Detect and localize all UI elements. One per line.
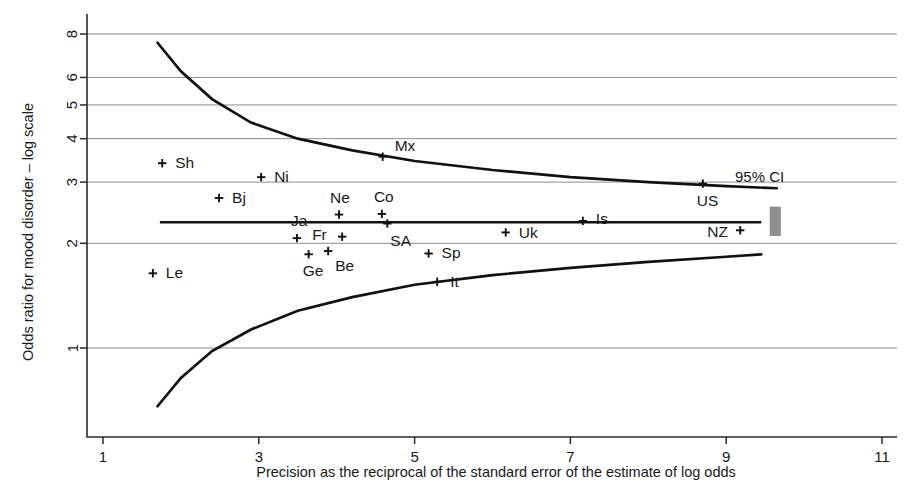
marker-sh <box>158 159 166 167</box>
data-point-labels: ShLeBjNiJaGeBeFrNeMxCoSASpItUkIsUSNZ <box>166 137 728 290</box>
point-label-ne: Ne <box>330 189 350 206</box>
ci-curve-upper <box>158 43 777 189</box>
ci-caption-label: 95% CI <box>735 168 784 185</box>
y-tick-label-5: 5 <box>64 101 81 109</box>
y-axis-ticks: 1234568 <box>64 30 88 352</box>
marker-us <box>699 179 707 187</box>
x-tick-label-3: 3 <box>255 448 263 465</box>
y-tick-label-4: 4 <box>64 134 81 142</box>
x-axis-ticks: 1357911 <box>99 437 890 465</box>
marker-fr <box>338 232 346 240</box>
point-label-it: It <box>450 273 459 290</box>
x-axis-title: Precision as the reciprocal of the stand… <box>256 464 736 480</box>
point-label-uk: Uk <box>519 224 538 241</box>
marker-is <box>579 217 587 225</box>
marker-nz <box>736 226 744 234</box>
marker-ja <box>293 234 301 242</box>
x-tick-label-9: 9 <box>722 448 730 465</box>
x-tick-label-7: 7 <box>566 448 574 465</box>
point-label-sh: Sh <box>175 154 194 171</box>
point-label-ja: Ja <box>291 212 308 229</box>
marker-it <box>433 278 441 286</box>
confidence-interval-curves <box>158 43 777 407</box>
marker-co <box>378 210 386 218</box>
y-tick-label-1: 1 <box>64 344 81 352</box>
x-tick-label-5: 5 <box>410 448 418 465</box>
marker-ni <box>257 173 265 181</box>
marker-be <box>324 247 332 255</box>
funnel-plot-figure: ShLeBjNiJaGeBeFrNeMxCoSASpItUkIsUSNZ 135… <box>0 0 912 502</box>
point-label-be: Be <box>335 257 354 274</box>
gridlines-group <box>87 34 897 348</box>
y-axis-title: Odds ratio for mood disorder – log scale <box>20 103 36 361</box>
point-label-fr: Fr <box>312 226 327 243</box>
marker-le <box>149 269 157 277</box>
point-label-nz: NZ <box>707 223 728 240</box>
point-label-le: Le <box>166 264 183 281</box>
marker-bj <box>215 194 223 202</box>
ci-curve-lower <box>158 254 762 406</box>
marker-sa <box>383 219 391 227</box>
marker-ge <box>304 250 312 258</box>
x-tick-label-1: 1 <box>99 448 107 465</box>
y-tick-label-6: 6 <box>64 73 81 81</box>
legend-color-swatch <box>770 207 781 236</box>
marker-sp <box>424 249 432 257</box>
funnel-plot-svg: ShLeBjNiJaGeBeFrNeMxCoSASpItUkIsUSNZ 135… <box>0 0 912 502</box>
legend-swatch-rect <box>770 207 781 236</box>
point-label-sp: Sp <box>442 244 461 261</box>
point-label-co: Co <box>374 188 394 205</box>
y-tick-label-8: 8 <box>64 30 81 38</box>
point-label-ge: Ge <box>303 262 324 279</box>
marker-ne <box>335 210 343 218</box>
point-label-mx: Mx <box>395 137 416 154</box>
point-label-is: Is <box>596 210 608 227</box>
y-tick-label-2: 2 <box>64 239 81 247</box>
point-label-ni: Ni <box>274 168 289 185</box>
marker-uk <box>502 228 510 236</box>
point-label-us: US <box>697 192 719 209</box>
data-point-markers <box>149 152 745 286</box>
point-label-bj: Bj <box>232 189 246 206</box>
point-label-sa: SA <box>390 232 411 249</box>
y-tick-label-3: 3 <box>64 178 81 186</box>
x-tick-label-11: 11 <box>874 448 890 465</box>
